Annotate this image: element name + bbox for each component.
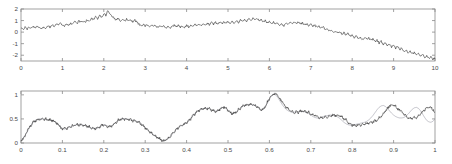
x-tick-label: 6: [268, 64, 272, 71]
y-tick-label: 1: [15, 17, 19, 24]
x-tick-label: 0.2: [99, 146, 108, 153]
y-tick-label: -1: [12, 40, 18, 47]
bottom-plot-panel: 00.10.20.30.40.50.60.70.80.9100.51: [0, 82, 452, 164]
x-tick-label: 10: [432, 64, 439, 71]
x-tick-label: 0.9: [389, 146, 398, 153]
x-tick-label: 9: [392, 64, 396, 71]
x-tick-label: 0.4: [182, 146, 191, 153]
x-tick-label: 5: [226, 64, 230, 71]
figure-container: 012345678910-2-1012 00.10.20.30.40.50.60…: [0, 0, 452, 164]
x-tick-label: 0.3: [141, 146, 150, 153]
axis-frame: [21, 91, 435, 143]
x-tick-label: 0: [19, 146, 23, 153]
y-tick-label: 2: [15, 5, 19, 12]
axis-frame: [21, 9, 435, 61]
y-tick-label: 0: [15, 139, 19, 146]
bottom-plot-svg: 00.10.20.30.40.50.60.70.80.9100.51: [0, 82, 452, 164]
x-tick-label: 0.5: [224, 146, 233, 153]
x-tick-label: 7: [309, 64, 313, 71]
x-tick-label: 1: [61, 64, 65, 71]
x-tick-label: 0: [19, 64, 23, 71]
top-plot-svg: 012345678910-2-1012: [0, 0, 452, 82]
y-tick-label: 1: [15, 91, 19, 98]
x-tick-label: 2: [102, 64, 106, 71]
x-tick-label: 1: [433, 146, 437, 153]
top-plot-panel: 012345678910-2-1012: [0, 0, 452, 82]
x-tick-label: 0.6: [265, 146, 274, 153]
x-tick-label: 0.1: [58, 146, 67, 153]
x-tick-label: 4: [185, 64, 189, 71]
x-tick-label: 0.8: [348, 146, 357, 153]
x-tick-label: 0.7: [306, 146, 315, 153]
x-tick-label: 8: [350, 64, 354, 71]
y-tick-label: 0.5: [9, 115, 18, 122]
y-tick-label: 0: [15, 28, 19, 35]
data-series-smooth-reference: [21, 94, 435, 141]
y-tick-label: -2: [12, 51, 18, 58]
x-tick-label: 3: [143, 64, 147, 71]
data-series-random-walk: [21, 11, 435, 60]
data-series-noisy-estimate: [21, 93, 435, 142]
